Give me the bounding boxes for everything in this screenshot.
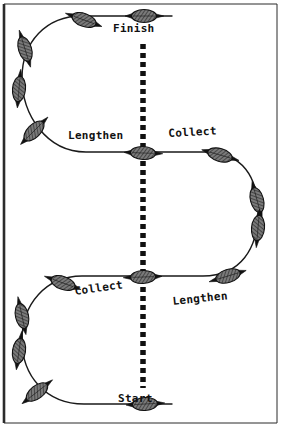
label-finish: Finish	[113, 23, 155, 34]
horse-rider-markers	[10, 7, 268, 411]
serpentine-pattern-figure: FinishLengthenCollectCollectLengthenStar…	[0, 0, 282, 428]
pattern-canvas	[0, 0, 282, 428]
marker-lower-right-1	[207, 264, 248, 288]
label-collect-upper: Collect	[168, 125, 217, 139]
label-lengthen-upper: Lengthen	[68, 130, 123, 141]
label-start: Start	[118, 393, 153, 404]
marker-lower-left-4	[18, 375, 57, 409]
marker-lower-center	[123, 270, 162, 284]
marker-finish	[125, 10, 164, 23]
serpentine-track	[22, 16, 258, 404]
marker-middle-center	[124, 146, 163, 160]
track-line	[22, 16, 258, 404]
marker-upper-left-1	[13, 28, 37, 69]
marker-top-straight	[63, 7, 104, 32]
marker-upper-right-3	[250, 209, 266, 249]
marker-upper-right-1	[200, 144, 241, 167]
marker-upper-left-3	[16, 112, 53, 149]
